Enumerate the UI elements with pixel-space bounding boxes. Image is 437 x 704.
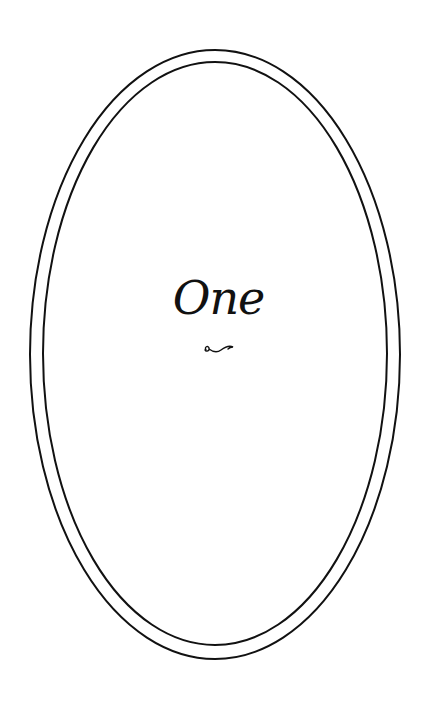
swash-flourish-icon [201,342,235,356]
chapter-title: One [0,268,437,328]
